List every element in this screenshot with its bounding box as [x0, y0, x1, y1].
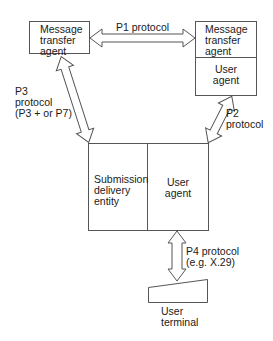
p3-protocol-label: P3 protocol (P3 + or P7)	[15, 86, 72, 119]
mta-right-label: Message transfer agent	[205, 24, 248, 57]
p1-protocol-label: P1 protocol	[116, 22, 169, 33]
ua-right-label: User agent	[196, 64, 256, 86]
mta-left-label: Message transfer agent	[40, 24, 83, 57]
terminal-shape	[149, 280, 208, 303]
p4-protocol-label: P4 protocol (e.g. X.29)	[186, 246, 239, 268]
sde-label: Submission delivery entity	[94, 174, 148, 207]
label-line: agent	[148, 188, 208, 199]
label-line: terminal	[161, 317, 198, 328]
label-line: agent	[196, 75, 256, 86]
label-line: P1 protocol	[116, 22, 169, 33]
p2-protocol-label: P2 protocol	[226, 108, 263, 130]
label-line: (P3 + or P7)	[15, 108, 72, 119]
ua-center-label: User agent	[148, 177, 208, 199]
label-line: entity	[94, 196, 148, 207]
label-line: agent	[205, 46, 248, 57]
label-line: (e.g. X.29)	[186, 257, 239, 268]
label-line: agent	[40, 46, 83, 57]
p4-arrow-icon	[168, 231, 186, 281]
label-line: protocol	[226, 119, 263, 130]
terminal-label: User terminal	[161, 306, 198, 328]
